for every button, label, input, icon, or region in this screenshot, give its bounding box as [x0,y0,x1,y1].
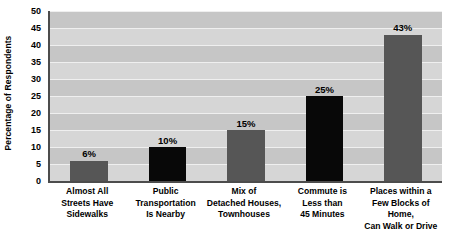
x-axis-label-line: Transportation [126,198,204,210]
y-axis-title-text: Percentage of Respondents [3,36,13,151]
y-axis-tick-label: 25 [31,92,41,101]
y-axis-tick-label: 15 [31,126,41,135]
x-axis-label-line: 45 Minutes [283,209,361,221]
x-axis-category-label: Places within aFew Blocks of Home,Can Wa… [362,186,440,232]
y-axis-tick-label: 45 [31,24,41,33]
x-axis-label-line: Sidewalks [48,209,126,221]
x-axis-label-line: Is Nearby [126,209,204,221]
x-axis-label-line: Almost All [48,186,126,198]
x-axis-category-label: Mix ofDetached Houses,Townhouses [205,186,283,221]
bar-value-label: 25% [315,85,334,95]
x-axis-category-label: Almost AllStreets HaveSidewalks [48,186,126,221]
bars-layer: 6%10%15%25%43% [50,11,442,181]
x-axis-label-line: Few Blocks of Home, [362,198,440,221]
x-axis-category-label: Commute isLess than45 Minutes [283,186,361,221]
y-axis-tick-label: 50 [31,7,41,16]
bar: 25% [306,96,344,181]
bar-value-label: 6% [82,149,96,159]
y-axis-tick-label: 30 [31,75,41,84]
bar: 15% [227,130,265,181]
y-axis-tick-label: 0 [36,177,41,186]
bar-chart: Percentage of Respondents 50454035302520… [0,0,449,232]
x-axis-category-label: PublicTransportationIs Nearby [126,186,204,221]
x-axis-label-line: Townhouses [205,209,283,221]
bar-value-label: 15% [236,119,255,129]
x-axis-label-line: Detached Houses, [205,198,283,210]
x-axis-label-line: Can Walk or Drive [362,221,440,232]
y-axis-tick-labels: 50454035302520151050 [16,11,44,181]
y-axis-tick-label: 5 [36,160,41,169]
y-axis-tick-label: 10 [31,143,41,152]
x-axis-label-line: Places within a [362,186,440,198]
bar: 10% [149,147,187,181]
y-axis-tick-label: 20 [31,109,41,118]
x-axis-category-labels: Almost AllStreets HaveSidewalksPublicTra… [48,186,440,232]
x-axis-label-line: Less than [283,198,361,210]
y-axis-title: Percentage of Respondents [0,0,16,186]
bar: 43% [384,35,422,181]
x-axis-label-line: Streets Have [48,198,126,210]
y-axis-tick-label: 35 [31,58,41,67]
bar: 6% [70,161,108,181]
bar-value-label: 43% [393,23,412,33]
x-axis-label-line: Mix of [205,186,283,198]
plot-area: 6%10%15%25%43% [48,11,442,183]
x-axis-label-line: Public [126,186,204,198]
bar-value-label: 10% [158,136,177,146]
y-axis-tick-label: 40 [31,41,41,50]
x-axis-label-line: Commute is [283,186,361,198]
